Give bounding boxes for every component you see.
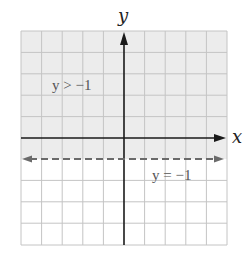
coordinate-plane: y x y > −1 y = −1 [0,0,247,262]
inequality-label: y > −1 [52,77,91,93]
y-axis-label: y [117,5,129,26]
boundary-label: y = −1 [152,167,191,183]
x-axis-label: x [232,126,242,147]
